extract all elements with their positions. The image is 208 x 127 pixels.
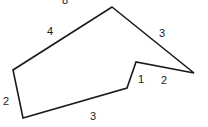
label-top-partial: 8: [62, 0, 68, 6]
label-side-inner-right: 2: [161, 74, 167, 86]
label-side-inner-short: 1: [138, 73, 144, 85]
label-side-upper-right: 3: [159, 27, 165, 39]
label-side-bottom: 3: [90, 110, 96, 122]
label-side-upper-left: 4: [47, 25, 53, 37]
irregular-polygon: [13, 7, 194, 118]
label-side-left: 2: [3, 95, 9, 107]
polygon-diagram: 8 4 3 1 2 2 3: [0, 0, 208, 127]
